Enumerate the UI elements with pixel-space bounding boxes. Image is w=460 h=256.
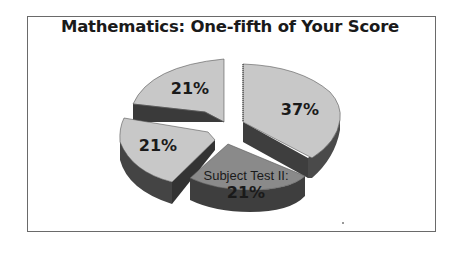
pie-chart: 37% 21% 21% Subject Test II: 21% xyxy=(0,0,460,256)
label-subject-test-ii-value: 21% xyxy=(227,183,265,202)
label-subject-test-ii: Subject Test II: xyxy=(203,168,288,183)
label-left: 21% xyxy=(139,136,177,155)
scan-speck xyxy=(342,222,344,224)
label-top-left: 21% xyxy=(171,79,209,98)
label-37: 37% xyxy=(281,100,319,119)
